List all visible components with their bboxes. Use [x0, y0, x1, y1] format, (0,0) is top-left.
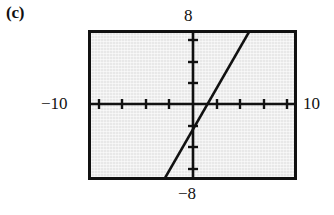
part-label: (c) [6, 4, 24, 21]
x-max-label: 10 [303, 95, 320, 112]
plot-area [91, 33, 294, 177]
y-min-label: −8 [178, 185, 196, 202]
x-min-label: −10 [41, 95, 68, 112]
calculator-screen [88, 30, 297, 180]
y-max-label: 8 [184, 7, 193, 24]
figure-container: (c) [0, 0, 334, 215]
